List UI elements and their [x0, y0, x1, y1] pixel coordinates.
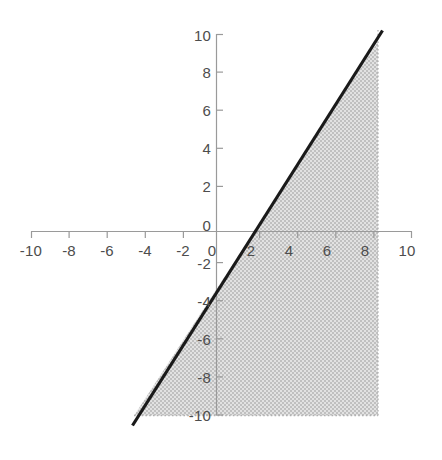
x-tick-label-10: 10 [398, 243, 415, 258]
y-tick-label-10: 10 [194, 28, 211, 43]
y-tick-label-4: 4 [202, 141, 211, 156]
chart-canvas: -10 -8 -6 -4 -2 0 2 4 6 8 10 10 8 6 4 2 … [0, 0, 442, 460]
chart-plot-area [0, 0, 442, 460]
y-tick-label--4: -4 [197, 294, 211, 309]
y-tick-label-2: 2 [202, 179, 211, 194]
y-tick-label--2: -2 [197, 256, 211, 271]
y-tick-label-6: 6 [202, 103, 211, 118]
x-tick-label-8: 8 [361, 243, 370, 258]
x-tick-label--10: -10 [20, 243, 42, 258]
y-tick-label--6: -6 [197, 332, 211, 347]
y-tick-label-8: 8 [202, 65, 211, 80]
x-tick-label-4: 4 [285, 243, 294, 258]
y-tick-label--10: -10 [189, 408, 211, 423]
y-tick-label-0: 0 [202, 218, 211, 233]
x-tick-label--8: -8 [62, 243, 76, 258]
x-tick-label--2: -2 [176, 243, 190, 258]
x-tick-label-2: 2 [247, 243, 256, 258]
x-tick-label--4: -4 [138, 243, 152, 258]
x-tick-label-6: 6 [323, 243, 332, 258]
y-tick-label--8: -8 [197, 370, 211, 385]
x-tick-label--6: -6 [100, 243, 114, 258]
